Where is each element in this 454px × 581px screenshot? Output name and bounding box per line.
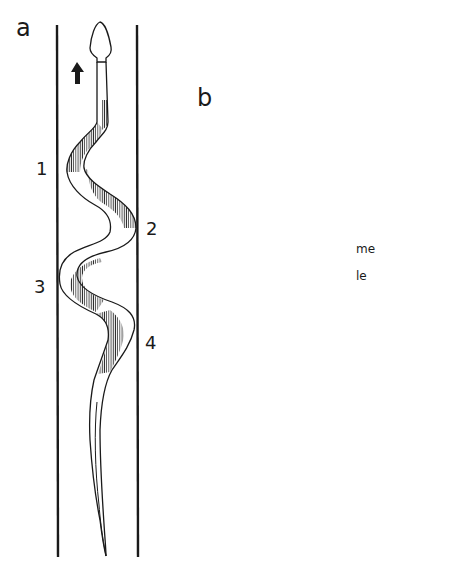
right-wall [137,25,138,557]
contact-point-4: 4 [145,334,156,352]
snake-locomotion-diagram [0,0,454,581]
panel-a [57,22,138,557]
left-wall [57,25,58,557]
annotation-le: le [356,270,367,282]
arrow-up-icon [71,62,84,84]
annotation-me: me [356,243,375,255]
muscle-bands-a [67,100,136,374]
contact-point-2: 2 [146,220,157,238]
panel-label-a: a [16,16,31,40]
panel-label-b: b [197,86,212,110]
contact-point-3: 3 [34,278,45,296]
contact-point-1: 1 [36,160,47,178]
